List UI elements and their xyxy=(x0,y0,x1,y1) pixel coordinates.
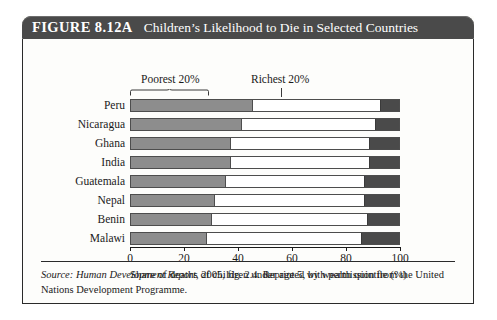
table-row[interactable]: Malawi xyxy=(130,232,400,245)
source-publication: Human Development Report, xyxy=(76,269,199,280)
country-label-peru: Peru xyxy=(104,100,125,112)
table-row[interactable]: India xyxy=(130,156,400,169)
x-tick-label-0: 0 xyxy=(127,252,133,264)
bar-segment-richest xyxy=(361,233,399,244)
richest-20-leader-line xyxy=(281,88,282,97)
figure-title: Children’s Likelihood to Die in Selected… xyxy=(144,20,418,35)
bar-segment-poorest xyxy=(131,100,253,111)
bar-segment-richest xyxy=(364,195,399,206)
table-row[interactable]: Peru xyxy=(130,99,400,112)
x-tick-label-20: 20 xyxy=(178,252,190,264)
table-row[interactable]: Ghana xyxy=(130,137,400,150)
x-tick-80 xyxy=(346,247,347,251)
bar-segment-poorest xyxy=(131,138,231,149)
figure-header-banner: FIGURE 8.12AChildren’s Likelihood to Die… xyxy=(22,16,474,39)
bar-segment-richest xyxy=(364,176,399,187)
bar-segment-richest xyxy=(369,157,399,168)
country-label-benin: Benin xyxy=(98,214,125,226)
bar-segment-poorest xyxy=(131,195,215,206)
bar-segment-poorest xyxy=(131,157,231,168)
source-prefix: Source: xyxy=(41,269,73,280)
country-label-guatemala: Guatemala xyxy=(75,176,125,188)
x-axis-line xyxy=(130,247,400,248)
bar-segment-richest xyxy=(367,214,399,225)
table-row[interactable]: Benin xyxy=(130,213,400,226)
figure-body: Poorest 20% Richest 20% Peru Nicaragua G… xyxy=(22,39,474,304)
x-tick-20 xyxy=(184,247,185,251)
figure-number: FIGURE 8.12A xyxy=(32,19,133,35)
table-row[interactable]: Nicaragua xyxy=(130,118,400,131)
x-tick-label-80: 80 xyxy=(340,252,352,264)
bar-segment-poorest xyxy=(131,233,207,244)
figure-box: FIGURE 8.12AChildren’s Likelihood to Die… xyxy=(22,16,474,304)
country-label-india: India xyxy=(101,157,125,169)
country-label-ghana: Ghana xyxy=(95,138,125,150)
bar-segment-poorest xyxy=(131,214,212,225)
country-label-nicaragua: Nicaragua xyxy=(78,119,125,131)
poorest-20-annotation-label: Poorest 20% xyxy=(141,73,199,85)
bar-segment-poorest xyxy=(131,176,226,187)
bar-segment-richest xyxy=(375,119,399,130)
figure-header-text: FIGURE 8.12AChildren’s Likelihood to Die… xyxy=(32,18,418,36)
table-row[interactable]: Nepal xyxy=(130,194,400,207)
richest-20-annotation-label: Richest 20% xyxy=(251,73,309,85)
x-tick-label-100: 100 xyxy=(391,252,408,264)
x-tick-40 xyxy=(238,247,239,251)
x-tick-label-60: 60 xyxy=(286,252,298,264)
x-tick-60 xyxy=(292,247,293,251)
country-label-malawi: Malawi xyxy=(90,233,125,245)
bar-segment-richest xyxy=(380,100,399,111)
table-row[interactable]: Guatemala xyxy=(130,175,400,188)
country-label-nepal: Nepal xyxy=(98,195,125,207)
x-tick-100 xyxy=(400,247,401,251)
source-note: Source: Human Development Report, 2005, … xyxy=(41,268,445,298)
bar-segment-poorest xyxy=(131,119,242,130)
chart-plot-area: Poorest 20% Richest 20% Peru Nicaragua G… xyxy=(23,39,475,254)
x-tick-0 xyxy=(130,247,131,251)
bar-segment-richest xyxy=(369,138,399,149)
source-divider xyxy=(41,261,455,262)
x-tick-label-40: 40 xyxy=(232,252,244,264)
poorest-20-brace-icon xyxy=(130,89,209,96)
